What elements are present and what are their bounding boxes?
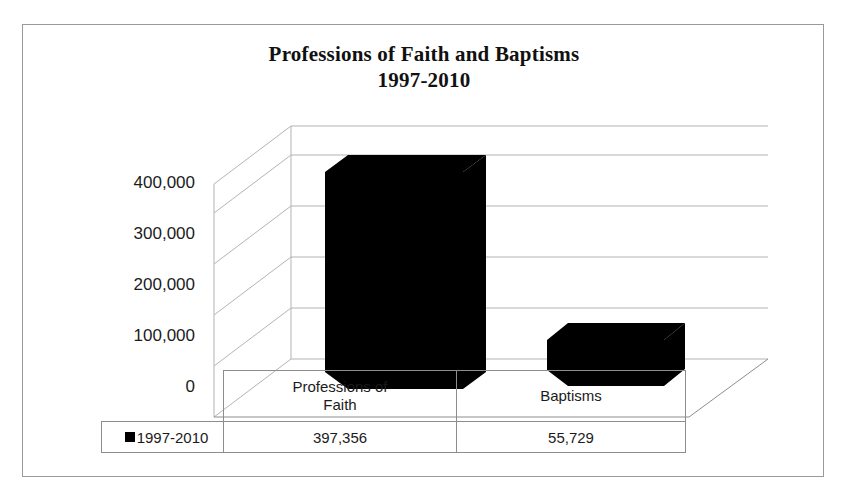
depth-edge-400000 [214, 155, 291, 213]
y-tick-label-300000: 300,000 [83, 224, 195, 244]
category-header-pof-line-1: Professions of [292, 378, 387, 395]
depth-edge-200000 [214, 257, 291, 315]
table-corner-spacer [102, 371, 224, 422]
depth-edge-100000 [214, 308, 291, 366]
depth-edge-300000 [214, 206, 291, 264]
category-header-baptisms: Baptisms [457, 371, 686, 422]
floor-right-edge [689, 359, 768, 417]
legend-swatch-icon [125, 432, 135, 442]
depth-edge-top [214, 126, 291, 184]
table-row-series-values: 1997-2010 397,356 55,729 [102, 422, 686, 453]
category-header-professions-of-faith: Professions of Faith [224, 371, 457, 422]
table-row-category-headers: Professions of Faith Baptisms [102, 371, 686, 422]
chart-frame: Professions of Faith and Baptisms 1997-2… [22, 24, 824, 477]
y-tick-label-200000: 200,000 [83, 275, 195, 295]
category-header-pof-line-2: Faith [323, 396, 356, 413]
value-professions-of-faith: 397,356 [224, 422, 457, 453]
y-tick-label-100000: 100,000 [83, 326, 195, 346]
y-tick-label-400000: 400,000 [83, 173, 195, 193]
category-header-baptisms-line-1: Baptisms [540, 387, 602, 404]
legend-entry-1997-2010[interactable]: 1997-2010 [102, 422, 224, 453]
bar-professions-of-faith[interactable] [325, 155, 486, 389]
legend-label: 1997-2010 [137, 429, 209, 446]
value-baptisms: 55,729 [457, 422, 686, 453]
data-table: Professions of Faith Baptisms 1997-2010 … [101, 370, 686, 453]
